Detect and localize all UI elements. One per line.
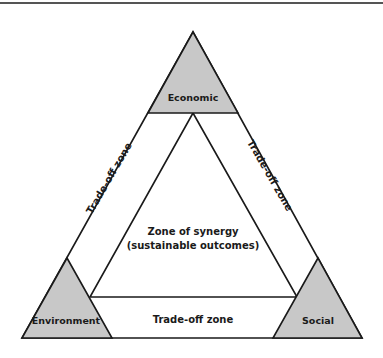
synergy-title: Zone of synergy: [147, 226, 239, 237]
sustainability-triangle-diagram: Economic Environment Social Trade-off zo…: [0, 0, 383, 358]
synergy-subtitle: (sustainable outcomes): [127, 240, 260, 251]
social-label: Social: [302, 315, 334, 326]
bottom-tradeoff-label: Trade-off zone: [153, 314, 234, 325]
environment-label: Environment: [32, 315, 101, 326]
economic-label: Economic: [168, 92, 219, 103]
